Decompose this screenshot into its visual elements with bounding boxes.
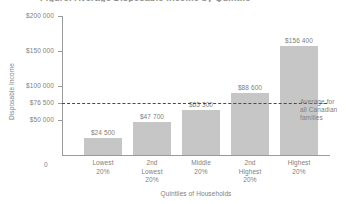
bar-2nd-lowest-20 (133, 122, 171, 155)
bar-middle-20 (182, 110, 220, 155)
cat-line: Lowest (80, 159, 126, 168)
bar-value-2nd-lowest-20: $47 700 (125, 113, 179, 120)
y-tick-200000 (58, 16, 63, 17)
avg-note-line: all Canadian (300, 106, 346, 114)
y-tick-label-50000: $50 000 (30, 116, 54, 123)
y-tick-label-76500: $76 500 (30, 99, 54, 106)
x-category-label-lowest-20: Lowest 20% (80, 159, 126, 176)
average-reference-line (62, 103, 327, 104)
cat-line: 20% (276, 168, 322, 177)
y-tick-label-100000: $100 000 (26, 82, 54, 89)
x-category-label-highest-20: Highest 20% (276, 159, 322, 176)
average-reference-label: Average for all Canadian families (300, 98, 346, 122)
bar-chart: Figure: Average Disposable Income by Qui… (0, 0, 346, 204)
y-tick-label-150000: $150 000 (26, 47, 54, 54)
y-tick-50000 (58, 120, 63, 121)
avg-note-line: families (300, 114, 346, 122)
cat-line: 20% (178, 168, 224, 177)
x-category-label-2nd-highest-20: 2nd Highest 20% (227, 159, 273, 185)
cat-line: Highest (227, 168, 273, 177)
cat-line: 2nd (129, 159, 175, 168)
y-tick-label-200000: $200 000 (26, 12, 54, 19)
bar-lowest-20 (84, 138, 122, 155)
cat-line: Middle (178, 159, 224, 168)
cat-line: Lowest (129, 168, 175, 177)
bar-value-2nd-highest-20: $88 600 (223, 84, 277, 91)
cat-line: 20% (129, 176, 175, 185)
cat-line: Highest (276, 159, 322, 168)
bar-value-highest-20: $156 400 (272, 37, 326, 44)
x-axis-title: Quintiles of Households (62, 190, 330, 197)
y-tick-150000 (58, 51, 63, 52)
cat-line: 20% (80, 168, 126, 177)
cat-line: 20% (227, 176, 273, 185)
x-category-label-2nd-lowest-20: 2nd Lowest 20% (129, 159, 175, 185)
bar-value-lowest-20: $24 500 (76, 129, 130, 136)
chart-title: Figure: Average Disposable Income by Qui… (40, 0, 340, 2)
x-axis-line (62, 155, 330, 156)
y-tick-100000 (58, 86, 63, 87)
x-category-label-middle-20: Middle 20% (178, 159, 224, 176)
y-axis-zero-label: 0 (44, 161, 48, 168)
cat-line: 2nd (227, 159, 273, 168)
avg-note-line: Average for (300, 98, 346, 106)
y-axis-title: Disposable Income (8, 47, 15, 137)
